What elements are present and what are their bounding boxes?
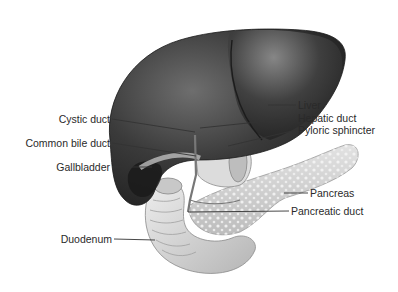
label-pancreatic-duct: Pancreatic duct (291, 205, 363, 217)
label-common-bile-duct: Common bile duct (25, 137, 110, 149)
label-duodenum: Duodenum (61, 233, 112, 245)
label-cystic-duct: Cystic duct (59, 113, 110, 125)
label-liver: Liver (298, 99, 321, 111)
anatomy-diagram: Cystic duct Common bile duct Gallbladder… (0, 0, 398, 292)
label-pyloric-sphincter: Pyloric sphincter (298, 124, 375, 136)
label-gallbladder: Gallbladder (56, 161, 110, 173)
label-hepatic-duct: Hepatic duct (298, 112, 356, 124)
label-pancreas: Pancreas (310, 187, 354, 199)
